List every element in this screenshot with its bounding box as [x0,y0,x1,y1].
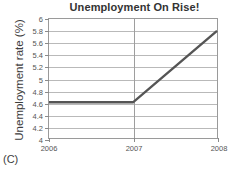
y-tick-label: 4.8 [33,87,43,96]
x-tick-label: 2008 [211,144,228,153]
unemployment-rate-line [49,31,217,102]
x-tick-label: 2007 [126,144,143,153]
chart-figure: Unemployment On Rise! Unemployment rate … [0,0,229,172]
y-tick-label: 5.4 [33,51,43,60]
y-tick-label: 5 [39,75,43,84]
x-tick-mark [49,138,50,142]
x-tick-mark [134,138,135,142]
panel-letter: (C) [3,153,18,165]
y-tick-label: 5.6 [33,39,43,48]
x-tick-label: 2006 [41,144,58,153]
y-axis-label-container: Unemployment rate (%) [9,13,25,148]
y-tick-label: 6 [39,15,43,24]
y-tick-label: 4.4 [33,111,43,120]
y-tick-label: 5.8 [33,27,43,36]
y-tick-label: 5.2 [33,63,43,72]
chart-title: Unemployment On Rise! [40,0,229,14]
y-axis-label: Unemployment rate (%) [13,19,25,140]
data-series-line [49,19,217,138]
x-tick-mark [218,138,219,142]
y-tick-label: 4.6 [33,99,43,108]
plot-area: 44.24.44.64.855.25.45.65.86 200620072008 [48,18,218,139]
y-tick-label: 4.2 [33,123,43,132]
